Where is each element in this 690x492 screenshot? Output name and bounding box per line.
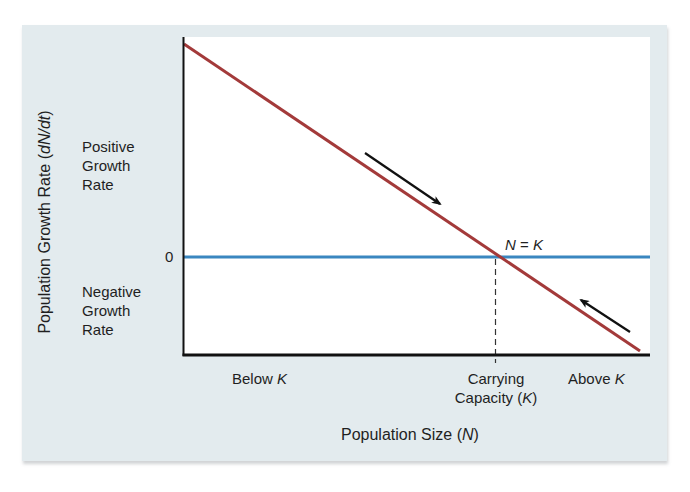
carrying-capacity-label: Carrying Capacity (K) bbox=[441, 369, 551, 407]
carrying-line2-text: Capacity ( bbox=[455, 389, 523, 406]
nk-eq: = bbox=[516, 236, 533, 253]
x-axis-label: Population Size (N) bbox=[341, 425, 479, 444]
nk-n: N bbox=[505, 236, 516, 253]
below-k-text: Below bbox=[232, 370, 277, 387]
carrying-line2-var: K bbox=[522, 389, 532, 406]
x-axis-label-var: N bbox=[462, 426, 474, 443]
nk-k: K bbox=[533, 236, 543, 253]
y-axis-label: Population Growth Rate (dN/dt) bbox=[36, 110, 54, 333]
negative-line2: Growth bbox=[82, 301, 141, 320]
negative-line1: Negative bbox=[82, 282, 141, 301]
positive-line1: Positive bbox=[82, 137, 135, 156]
carrying-line2-suffix: ) bbox=[532, 389, 537, 406]
positive-line2: Growth bbox=[82, 156, 135, 175]
carrying-line2: Capacity (K) bbox=[441, 388, 551, 407]
y-axis-label-text: Population Growth Rate ( bbox=[36, 154, 53, 334]
y-axis-label-var: dN/dt bbox=[36, 116, 53, 154]
positive-line3: Rate bbox=[82, 175, 135, 194]
chart-svg bbox=[0, 0, 690, 492]
x-axis-label-suffix: ) bbox=[474, 426, 479, 443]
y-axis-label-suffix: ) bbox=[36, 110, 53, 115]
above-k-var: K bbox=[615, 370, 625, 387]
arrow-down-right-icon bbox=[365, 153, 440, 204]
above-k-text: Above bbox=[568, 370, 615, 387]
below-k-var: K bbox=[277, 370, 287, 387]
negative-line3: Rate bbox=[82, 320, 141, 339]
n-equals-k-annotation: N = K bbox=[505, 235, 543, 254]
carrying-line1: Carrying bbox=[441, 369, 551, 388]
above-k-label: Above K bbox=[568, 369, 625, 388]
growth-rate-line bbox=[184, 44, 640, 351]
below-k-label: Below K bbox=[232, 369, 287, 388]
zero-tick-label: 0 bbox=[165, 247, 173, 266]
negative-growth-label: Negative Growth Rate bbox=[82, 282, 141, 339]
x-axis-label-text: Population Size ( bbox=[341, 426, 462, 443]
positive-growth-label: Positive Growth Rate bbox=[82, 137, 135, 194]
